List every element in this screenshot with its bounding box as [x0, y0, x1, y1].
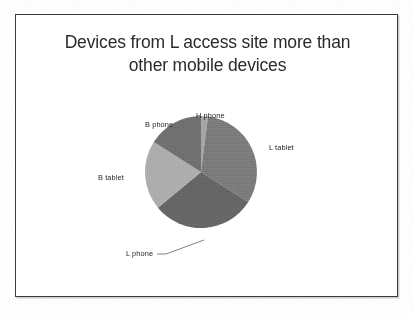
- pie-slices-svg: [138, 109, 264, 249]
- pie-label-h-phone: H phone: [196, 111, 225, 120]
- pie-label-l-tablet: L tablet: [269, 143, 294, 152]
- pie-label-b-phone: B phone: [145, 120, 173, 129]
- slide-frame: Devices from L access site more than oth…: [15, 14, 398, 297]
- pie-label-b-tablet: B tablet: [98, 173, 124, 182]
- pie-chart: H phone L tablet B phone B tablet L phon…: [16, 15, 399, 298]
- pie-label-l-phone: L phone: [126, 249, 153, 258]
